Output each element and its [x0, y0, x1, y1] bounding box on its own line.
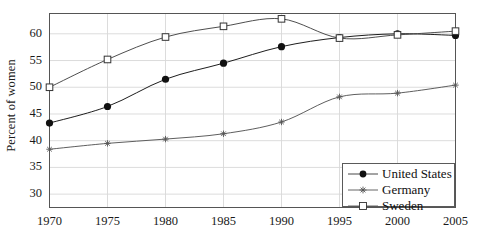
legend-item-united-states: United States — [346, 166, 451, 182]
legend-swatch-star-icon — [346, 182, 380, 198]
x-tick-label: 1980 — [143, 214, 189, 229]
x-tick-label: 2005 — [433, 214, 479, 229]
y-tick-label: 50 — [18, 79, 42, 94]
y-tick-label: 60 — [18, 26, 42, 41]
x-tick-label: 1975 — [85, 214, 131, 229]
line-chart: Percent of women 30354045505560 19701975… — [0, 0, 479, 244]
x-tick-label: 1985 — [201, 214, 247, 229]
y-tick-label: 45 — [18, 106, 42, 121]
legend-label-germany: Germany — [380, 182, 430, 198]
y-tick-label: 55 — [18, 53, 42, 68]
legend: United States Germany — [342, 163, 455, 207]
legend-swatch-open-square-icon — [346, 198, 380, 214]
x-tick-label: 1990 — [259, 214, 305, 229]
y-tick-label: 35 — [18, 159, 42, 174]
legend-label-united-states: United States — [380, 166, 452, 182]
legend-swatch-filled-circle-icon — [346, 166, 380, 182]
legend-item-sweden: Sweden — [346, 198, 451, 214]
legend-item-germany: Germany — [346, 182, 451, 198]
x-tick-label: 1970 — [27, 214, 73, 229]
y-tick-label: 30 — [18, 186, 42, 201]
legend-label-sweden: Sweden — [380, 198, 423, 214]
x-tick-label: 1995 — [317, 214, 363, 229]
y-tick-label: 40 — [18, 133, 42, 148]
x-tick-label: 2000 — [375, 214, 421, 229]
